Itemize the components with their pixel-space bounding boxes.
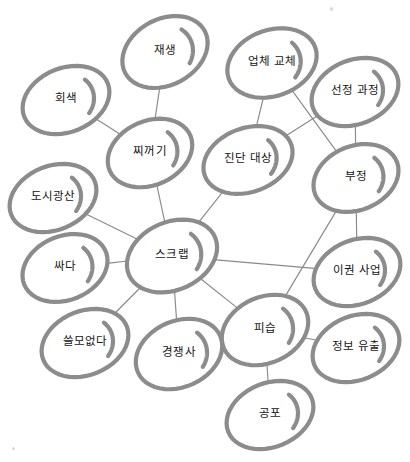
graph-node-igwon[interactable] <box>314 238 401 306</box>
node-outline-tail <box>197 333 207 367</box>
graph-edge-dosi-to-seukeurap <box>87 215 137 239</box>
node-outline <box>108 119 192 188</box>
node-outline-tail <box>181 29 192 63</box>
node-outline <box>22 234 107 302</box>
graph-edge-seukeurap-to-piseup <box>201 279 236 307</box>
graph-edge-seukeurap-to-igwon <box>216 260 314 269</box>
graph-edge-jindan-to-seukeurap <box>200 193 222 221</box>
node-outline-tail <box>168 132 178 165</box>
node-outline-tail <box>268 140 276 174</box>
node-outline <box>23 66 110 134</box>
paper-speck <box>330 7 333 11</box>
node-outline-tail <box>72 178 81 212</box>
graph-node-ssada[interactable] <box>22 234 107 302</box>
node-outline <box>227 381 314 449</box>
node-outline-tail <box>375 328 384 362</box>
node-outline-tail <box>374 158 383 191</box>
graph-node-upche-gyoche[interactable] <box>227 28 316 97</box>
graph-node-gyeongjaengsa[interactable] <box>136 319 222 390</box>
node-outline-tail <box>283 309 293 343</box>
node-outline <box>227 28 316 97</box>
graph-node-jjikkeogi[interactable] <box>108 119 192 188</box>
node-outline <box>136 319 222 390</box>
node-outline-tail <box>289 395 298 429</box>
graph-edge-piseup-to-jeongbo <box>305 338 315 340</box>
node-outline <box>313 314 400 382</box>
graph-edge-upche-gyoche-to-bujeong <box>293 91 336 150</box>
graph-edge-gyeongjaengsa-to-seukeurap <box>175 292 177 318</box>
node-outline-tail <box>191 234 201 269</box>
node-outline-tail <box>376 252 385 286</box>
node-outline-tail <box>292 43 301 78</box>
graph-canvas <box>0 0 410 462</box>
graph-edge-hoesaek-to-jjikkeogi <box>97 120 119 134</box>
graph-edge-upche-gyoche-to-jindan <box>257 99 263 124</box>
graph-edge-piseup-to-gongpo <box>267 365 268 380</box>
graph-edge-jjikkeogi-to-seukeurap <box>157 186 164 221</box>
node-outline <box>10 164 97 232</box>
graph-node-jindan[interactable] <box>203 126 292 194</box>
node-outline <box>314 238 401 306</box>
node-outline <box>203 126 292 194</box>
graph-node-dosi[interactable] <box>10 164 97 232</box>
node-outline-tail <box>104 323 113 357</box>
node-outline <box>312 58 399 126</box>
nodes-layer <box>10 16 401 449</box>
graph-node-jaesaeng[interactable] <box>122 16 207 88</box>
graph-node-seonjeong[interactable] <box>312 58 399 126</box>
graph-edge-sseulmo-to-seukeurap <box>116 289 140 313</box>
concept-network-diagram: 재생업체 교체선정 과정회색찌꺼기진단 대상부정도시광산스크랩싸다이권 사업쓸모… <box>0 0 410 462</box>
graph-edge-ssada-to-seukeurap <box>109 261 126 263</box>
graph-edge-seonjeong-to-jindan <box>287 117 316 136</box>
graph-node-jeongbo[interactable] <box>313 314 400 382</box>
node-outline <box>313 144 398 212</box>
graph-node-sseulmo[interactable] <box>42 309 129 377</box>
node-outline-tail <box>85 80 94 114</box>
graph-node-hoesaek[interactable] <box>23 66 110 134</box>
paper-speck <box>12 447 15 450</box>
graph-edge-jaesaeng-to-jjikkeogi <box>155 89 159 117</box>
node-outline <box>42 309 129 377</box>
graph-node-gongpo[interactable] <box>227 381 314 449</box>
node-outline-tail <box>83 248 92 281</box>
node-outline-tail <box>374 72 383 106</box>
graph-node-bujeong[interactable] <box>313 144 398 212</box>
